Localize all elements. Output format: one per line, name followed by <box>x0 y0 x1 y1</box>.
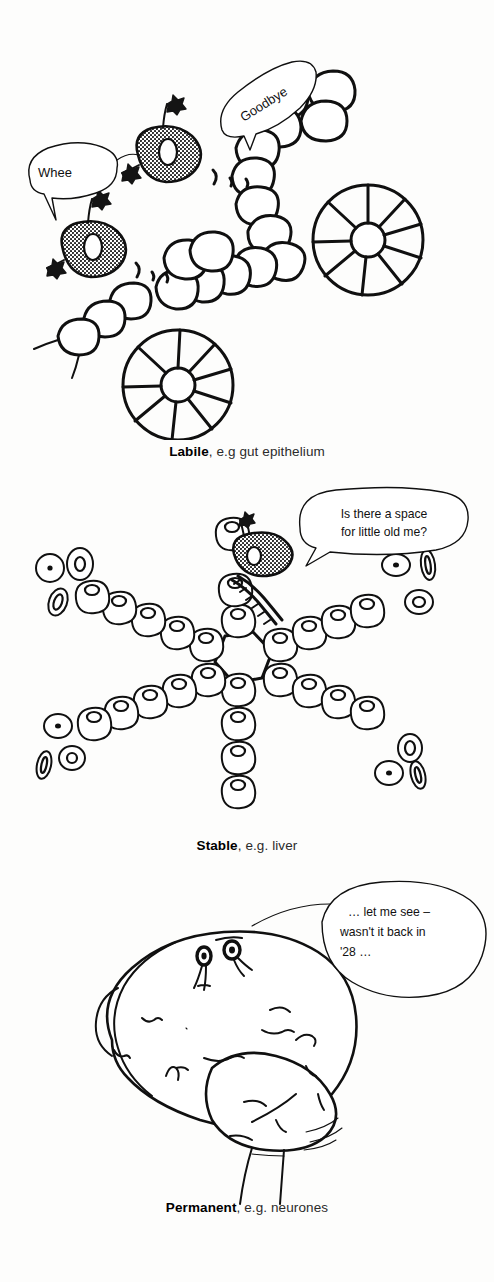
panel-permanent: … let me see – wasn't it back in '28 … P… <box>0 870 494 1282</box>
stable-illustration: Is there a space for little old me? <box>0 480 494 835</box>
caption-permanent-term: Permanent <box>166 1200 237 1215</box>
speech-bubble-space: Is there a space for little old me? <box>300 487 468 566</box>
hepatocyte-cord-lower-right <box>264 664 384 729</box>
panel-labile: Whee Goodbye Labile, e.g gut epithelium <box>0 0 494 480</box>
stem-cell-lower <box>47 190 168 282</box>
speech-bubble-space-line1: Is there a space <box>341 507 428 521</box>
epithelial-chain-lower-left <box>34 283 151 378</box>
speech-bubble-let-me-see-line1: … let me see – <box>348 905 430 919</box>
crypt-rosette-left <box>123 330 233 440</box>
star-hand-icon <box>47 259 66 279</box>
speech-bubble-let-me-see-line2: wasn't it back in <box>339 925 426 939</box>
star-hand-icon <box>167 95 186 115</box>
hepatocyte-cord-upper-left <box>76 581 223 661</box>
caption-labile-rest: , e.g gut epithelium <box>209 444 325 459</box>
caption-permanent: Permanent, e.g. neurones <box>0 1200 494 1215</box>
permanent-illustration: … let me see – wasn't it back in '28 … <box>0 870 494 1205</box>
caption-stable: Stable, e.g. liver <box>0 838 494 853</box>
hepatocyte-cords <box>76 518 384 808</box>
speech-bubble-space-line2: for little old me? <box>341 525 427 539</box>
panel-stable: Is there a space for little old me? Stab… <box>0 480 494 870</box>
speech-bubble-whee-text: Whee <box>38 165 72 180</box>
caption-permanent-rest: , e.g. neurones <box>237 1200 329 1215</box>
speech-bubble-let-me-see-line3: '28 … <box>340 945 371 959</box>
caption-stable-rest: , e.g. liver <box>238 838 298 853</box>
caption-stable-term: Stable <box>197 838 238 853</box>
hepatocyte-cord-down <box>222 674 255 808</box>
hepatocyte-cord-upper-right <box>264 595 384 661</box>
labile-illustration: Whee Goodbye <box>0 0 494 440</box>
brain <box>96 931 357 1204</box>
caption-labile-term: Labile <box>169 444 209 459</box>
figure-sheet: Whee Goodbye Labile, e.g gut epithelium <box>0 0 494 1282</box>
hepatocyte-cord-lower-left <box>78 664 225 740</box>
crypt-rosette-right <box>313 185 423 295</box>
caption-labile: Labile, e.g gut epithelium <box>0 444 494 459</box>
star-hand-icon <box>122 164 141 184</box>
star-hand-icon <box>239 512 255 528</box>
